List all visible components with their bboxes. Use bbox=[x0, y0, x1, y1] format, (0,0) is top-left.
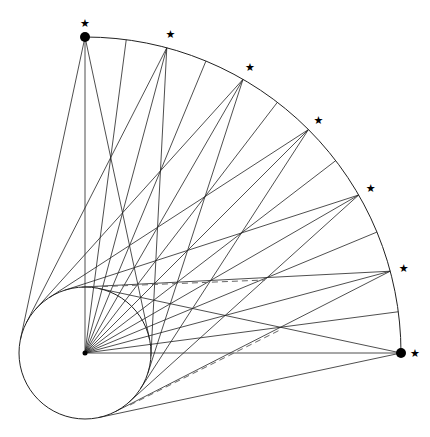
star-marker: ★ bbox=[410, 347, 420, 360]
tangent-line bbox=[148, 79, 243, 373]
radial-line bbox=[85, 79, 243, 353]
tangent-line bbox=[99, 353, 401, 418]
star-marker: ★ bbox=[165, 28, 175, 41]
star-marker: ★ bbox=[399, 262, 409, 275]
tangent-line bbox=[65, 195, 359, 290]
large-dot bbox=[80, 32, 90, 42]
dashed-lines bbox=[92, 280, 280, 405]
radial-line bbox=[85, 195, 359, 353]
dashed-line bbox=[130, 330, 280, 405]
tangent-line bbox=[49, 130, 308, 298]
tangent-line bbox=[129, 195, 358, 402]
geometry-diagram: ★★★★★★★ bbox=[0, 0, 430, 437]
radial-lines bbox=[85, 37, 401, 353]
center-point bbox=[83, 351, 88, 356]
radial-line bbox=[85, 232, 377, 353]
star-marker: ★ bbox=[366, 182, 376, 195]
tangent-line bbox=[140, 130, 308, 389]
star-marker: ★ bbox=[245, 61, 255, 74]
radial-line bbox=[85, 130, 308, 353]
tangent-line bbox=[36, 79, 243, 308]
star-marker: ★ bbox=[313, 114, 323, 127]
large-dot bbox=[396, 348, 406, 358]
tangent-line bbox=[20, 37, 85, 339]
star-marker: ★ bbox=[80, 17, 90, 30]
radial-line bbox=[85, 61, 206, 353]
